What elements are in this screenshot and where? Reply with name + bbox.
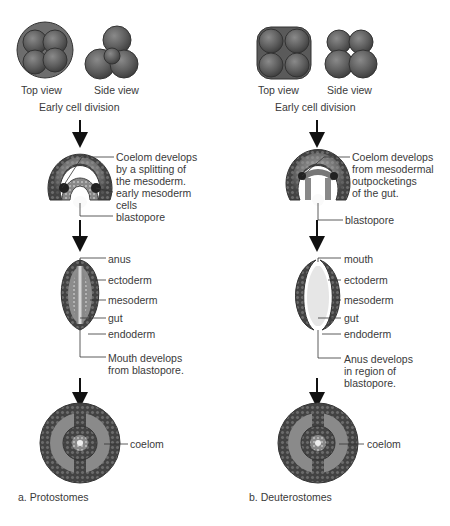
protostome-coelom-splitting-label: Coelom develops by a splitting of the me… xyxy=(116,151,197,187)
deuterostome-mouth-label: mouth xyxy=(344,253,373,265)
deuterostome-mesoderm-label: mesoderm xyxy=(344,294,394,306)
deuterostome-gastrula xyxy=(286,150,350,206)
deuterostome-coelom-outpocketing-label: Coelom develops from mesodermal outpocke… xyxy=(352,151,434,199)
protostome-endoderm-label: endoderm xyxy=(108,328,155,340)
deuterostomes-title: b. Deuterostomes xyxy=(249,491,332,503)
protostomes-title: a. Protostomes xyxy=(18,491,89,503)
deuterostome-blastopore-label: blastopore xyxy=(345,214,394,226)
protostome-early-mesoderm-label: early mesoderm cells xyxy=(116,187,191,211)
protostome-top-view-label: Top view xyxy=(21,84,62,96)
deuterostome-early-cell-division-caption: Early cell division xyxy=(275,101,356,113)
protostome-side-view-embryo xyxy=(85,26,138,79)
protostome-side-view-label: Side view xyxy=(94,84,139,96)
deuterostome-side-view-embryo xyxy=(325,30,377,78)
deuterostome-coelom-label: coelom xyxy=(367,438,401,450)
protostome-blastopore-label: blastopore xyxy=(116,211,165,223)
protostome-larval-embryo xyxy=(61,260,99,330)
protostome-anus-label: anus xyxy=(108,253,131,265)
deuterostome-larval-embryo xyxy=(296,260,340,330)
protostome-coelom-label: coelom xyxy=(130,438,164,450)
deuterostome-top-view-embryo xyxy=(257,27,311,79)
deuterostome-cross-section xyxy=(278,403,358,483)
protostome-mesoderm-label: mesoderm xyxy=(108,294,158,306)
protostome-ectoderm-label: ectoderm xyxy=(108,274,152,286)
protostome-cross-section xyxy=(40,403,120,483)
protostome-mouth-from-blastopore-label: Mouth develops from blastopore. xyxy=(108,352,184,376)
protostome-top-view-embryo xyxy=(17,22,73,78)
deuterostome-gut-label: gut xyxy=(344,312,359,324)
deuterostome-top-view-label: Top view xyxy=(258,84,299,96)
deuterostome-anus-in-blastopore-label: Anus develops in region of blastopore. xyxy=(344,353,413,389)
protostome-early-cell-division-caption: Early cell division xyxy=(39,101,120,113)
protostome-gastrula xyxy=(48,154,112,208)
deuterostome-side-view-label: Side view xyxy=(327,84,372,96)
deuterostome-ectoderm-label: ectoderm xyxy=(344,274,388,286)
deuterostome-endoderm-label: endoderm xyxy=(344,328,391,340)
protostome-gut-label: gut xyxy=(108,312,123,324)
